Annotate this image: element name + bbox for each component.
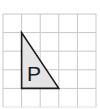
square-grid xyxy=(3,14,96,107)
grid-diagram: P xyxy=(0,0,100,109)
shape-label: P xyxy=(27,62,41,85)
